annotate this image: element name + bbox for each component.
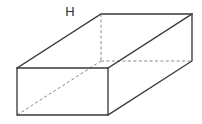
prism-figure-container: H xyxy=(0,0,202,124)
diagram-background xyxy=(0,0,202,124)
height-label: H xyxy=(65,4,74,19)
rectangular-prism-diagram: H xyxy=(0,0,202,124)
